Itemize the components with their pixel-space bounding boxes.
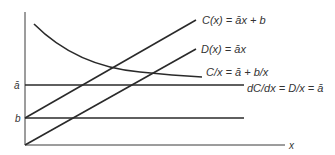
average-cost-curve: [34, 24, 202, 77]
marginal-cost-label: dC/dx = D/x = ā: [247, 82, 323, 94]
total-cost-label: C(x) = āx + b: [202, 14, 266, 26]
y-tick-a-bar: ā: [14, 80, 20, 91]
total-cost-line: [25, 20, 196, 118]
cost-diagram: C(x) = āx + b D(x) = āx C/x = ā + b/x dC…: [0, 0, 335, 155]
y-tick-b: b: [15, 113, 21, 124]
x-axis-label: x: [288, 140, 295, 151]
average-cost-label: C/x = ā + b/x: [206, 66, 269, 78]
variable-cost-line: [25, 49, 196, 145]
variable-cost-label: D(x) = āx: [201, 43, 246, 55]
